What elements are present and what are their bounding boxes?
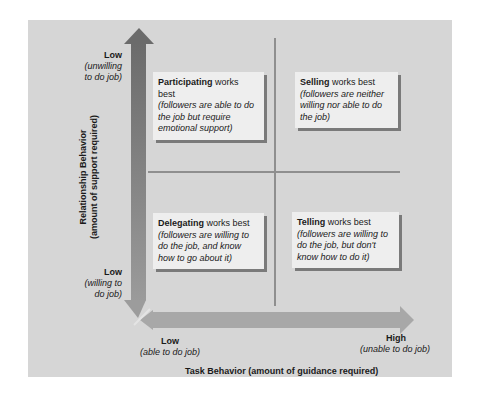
vertical-axis-arrow-icon bbox=[124, 28, 154, 318]
x-axis-right-label: High (unable to do job) bbox=[350, 333, 430, 355]
quadrant-telling: Telling works best (followers are willin… bbox=[292, 212, 399, 268]
horizontal-axis-arrow-icon bbox=[140, 306, 414, 334]
x-axis-title: Task Behavior (amount of guidance requir… bbox=[185, 366, 378, 376]
x-axis-left-label: Low (able to do job) bbox=[130, 336, 210, 358]
quadrant-delegating: Delegating works best (followers are wil… bbox=[153, 213, 264, 269]
quadrant-selling: Selling works best (followers are neithe… bbox=[295, 72, 398, 128]
y-axis-top-label: Low (unwilling to do job) bbox=[60, 50, 122, 83]
horizontal-divider bbox=[148, 171, 400, 173]
y-axis-bottom-label: Low (willing to do job) bbox=[60, 267, 122, 300]
y-axis-title: Relationship Behavior (amount of support… bbox=[78, 112, 102, 242]
quadrant-participating: Participating works best (followers are … bbox=[153, 72, 264, 140]
